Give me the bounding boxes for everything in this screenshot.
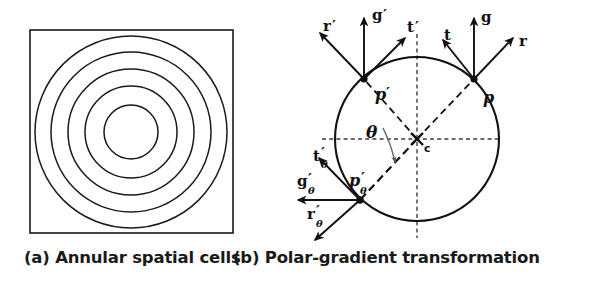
label-theta: θ bbox=[366, 122, 378, 142]
label-vector-g-prime: g ′ bbox=[372, 6, 387, 24]
label-vector-r-prime-theta: r ′ θ bbox=[307, 202, 323, 229]
label-vector-r-prime-theta-text: r bbox=[307, 205, 316, 223]
radial-dash-c-to-p-prime-theta bbox=[360, 139, 417, 200]
label-vector-g-prime-text: g bbox=[372, 6, 383, 24]
label-vector-g: g bbox=[481, 8, 492, 26]
label-vector-t: t bbox=[444, 26, 451, 44]
polar-gradient-svg: g r t p g ′ t ′ r ′ bbox=[295, 0, 590, 245]
theta-arc-arrow bbox=[383, 128, 395, 162]
caption-panel-a: (a) Annular spatial cells bbox=[24, 248, 241, 267]
label-vector-t-prime-mark: ′ bbox=[415, 18, 419, 36]
vector-r-arrow bbox=[474, 38, 513, 79]
label-point-p-prime-theta-sub: θ bbox=[360, 185, 367, 196]
label-point-p-text: p bbox=[483, 88, 494, 107]
label-vector-t-prime-theta-sub: θ bbox=[321, 159, 328, 170]
label-vector-g-prime-theta: g ′ θ bbox=[297, 170, 315, 196]
label-point-p-prime: p ′ bbox=[375, 84, 390, 104]
label-vector-t-prime-theta: t ′ θ bbox=[313, 144, 328, 170]
label-vector-r-prime-text: r bbox=[323, 17, 332, 35]
label-center-c: c bbox=[424, 142, 431, 155]
annular-cells-svg bbox=[0, 0, 295, 240]
bounding-square bbox=[30, 30, 233, 233]
label-point-p-prime-theta-text: p bbox=[349, 171, 360, 190]
label-vector-r: r bbox=[519, 32, 528, 50]
label-point-p-prime-mark: ′ bbox=[386, 84, 390, 102]
vector-t-arrow bbox=[443, 40, 474, 79]
label-vector-t-prime: t ′ bbox=[407, 18, 419, 36]
label-vector-r-prime: r ′ bbox=[323, 17, 336, 35]
label-vector-g-prime-theta-sub: θ bbox=[308, 185, 315, 196]
label-vector-t-prime-theta-text: t bbox=[313, 147, 320, 165]
label-vector-g-prime-mark: ′ bbox=[383, 6, 387, 24]
radial-dash-c-to-p bbox=[417, 79, 474, 139]
label-vector-g-prime-theta-text: g bbox=[297, 172, 308, 190]
label-vector-r-prime-theta-sub: θ bbox=[316, 218, 323, 229]
panel-polar-gradient-transformation: g r t p g ′ t ′ r ′ bbox=[295, 0, 590, 240]
vector-r-prime-arrow bbox=[320, 33, 364, 79]
point-p-group bbox=[443, 18, 513, 83]
panel-annular-spatial-cells bbox=[0, 0, 295, 240]
caption-panel-b: (b) Polar-gradient transformation bbox=[233, 248, 540, 267]
label-point-p: p bbox=[483, 88, 494, 107]
label-point-p-prime-text: p bbox=[375, 85, 386, 104]
label-vector-r-prime-mark: ′ bbox=[332, 17, 336, 35]
label-vector-t-prime-text: t bbox=[407, 18, 414, 36]
figure-container: g r t p g ′ t ′ r ′ bbox=[0, 0, 590, 289]
